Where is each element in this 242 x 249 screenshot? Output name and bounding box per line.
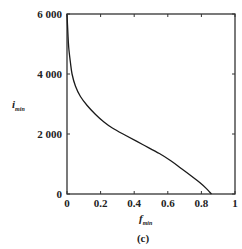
x-axis: 00.20.40.60.81 [64, 14, 238, 209]
y-tick-label: 0 [57, 188, 63, 200]
x-axis-label: fmin [139, 212, 153, 226]
figure-caption: (c) [137, 232, 150, 245]
x-tick-label: 1 [232, 197, 238, 209]
plot-frame [67, 14, 235, 194]
x-tick-label: 0.2 [94, 197, 108, 209]
y-axis-label: imin [12, 98, 25, 112]
x-tick-label: 0.8 [195, 197, 209, 209]
data-series-line [67, 14, 211, 194]
y-tick-label: 4 000 [37, 68, 62, 80]
plot-area [67, 14, 235, 194]
x-tick-label: 0 [64, 197, 70, 209]
x-tick-label: 0.6 [161, 197, 175, 209]
x-tick-label: 0.4 [127, 197, 141, 209]
y-tick-label: 6 000 [37, 8, 62, 20]
chart: 02 0004 0006 000 00.20.40.60.81 imin fmi… [0, 0, 242, 249]
y-tick-label: 2 000 [37, 128, 62, 140]
